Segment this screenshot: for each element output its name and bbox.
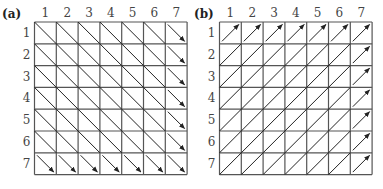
diagonal-line: [122, 131, 144, 153]
diagonal-line: [100, 44, 122, 66]
diagonal-line: [144, 109, 166, 131]
column-label: 7: [357, 6, 365, 20]
row-label: 1: [208, 26, 216, 40]
diagonal-arrow: [124, 155, 141, 172]
diagonal-line: [78, 87, 100, 109]
diagonal-line: [144, 44, 166, 66]
column-label: 1: [227, 6, 235, 20]
row-label: 3: [23, 70, 31, 84]
diagonal-line: [35, 109, 57, 131]
diagonal-line: [220, 66, 242, 88]
diagonal-arrow: [59, 155, 76, 172]
diagonal-arrow: [309, 25, 326, 42]
panel-label-a: (a): [2, 7, 21, 21]
diagonal-arrow: [266, 25, 283, 42]
diagonal-line: [263, 44, 285, 66]
column-label: 2: [63, 6, 71, 20]
diagonal-line: [241, 131, 263, 153]
diagonal-line: [56, 131, 78, 153]
diagonal-line: [122, 109, 144, 131]
column-label: 6: [151, 6, 159, 20]
diagonal-arrow: [168, 68, 185, 85]
diagonal-line: [100, 109, 122, 131]
diagonal-line: [220, 44, 242, 66]
diagonal-line: [144, 66, 166, 88]
row-label: 2: [208, 48, 216, 62]
diagonal-arrow: [353, 25, 370, 42]
row-label: 7: [208, 157, 216, 171]
diagonal-line: [241, 44, 263, 66]
diagonal-line: [241, 109, 263, 131]
diagram-figure: (a)12345671234567 (b)12345671234567: [0, 0, 383, 189]
diagonal-arrow: [353, 134, 370, 151]
diagonal-arrow: [168, 134, 185, 151]
diagonal-arrow: [353, 155, 370, 172]
diagonal-arrow: [353, 112, 370, 129]
column-label: 2: [248, 6, 256, 20]
diagonal-line: [100, 87, 122, 109]
diagonal-line: [56, 66, 78, 88]
diagonal-line: [78, 131, 100, 153]
diagonal-line: [144, 22, 166, 44]
diagonal-line: [329, 153, 351, 175]
diagonal-line: [35, 66, 57, 88]
diagonal-line: [35, 131, 57, 153]
diagonal-line: [307, 87, 329, 109]
diagonal-arrow: [331, 25, 348, 42]
diagonal-line: [307, 109, 329, 131]
diagonal-line: [263, 87, 285, 109]
diagonal-arrow: [168, 25, 185, 42]
panel-b: (b)12345671234567: [194, 6, 372, 175]
diagonal-line: [329, 109, 351, 131]
row-label: 4: [208, 91, 216, 105]
diagonal-line: [122, 44, 144, 66]
diagonal-line: [56, 22, 78, 44]
diagonal-line: [241, 153, 263, 175]
diagonal-line: [285, 109, 307, 131]
column-label: 5: [129, 6, 137, 20]
diagonal-arrow: [168, 46, 185, 63]
column-label: 6: [336, 6, 344, 20]
diagonal-line: [220, 131, 242, 153]
diagonal-arrow: [81, 155, 98, 172]
diagonal-line: [78, 109, 100, 131]
diagonal-arrow: [222, 25, 239, 42]
row-label: 6: [23, 135, 31, 149]
diagonal-line: [329, 66, 351, 88]
column-label: 4: [292, 6, 300, 20]
diagonal-line: [285, 87, 307, 109]
diagonal-line: [100, 131, 122, 153]
column-label: 3: [85, 6, 93, 20]
diagonal-line: [220, 109, 242, 131]
diagonal-line: [285, 66, 307, 88]
diagonal-line: [56, 87, 78, 109]
diagonal-line: [263, 131, 285, 153]
diagonal-line: [122, 66, 144, 88]
diagonal-arrow: [168, 155, 185, 172]
diagonal-line: [241, 87, 263, 109]
diagonal-line: [307, 66, 329, 88]
diagonal-line: [78, 66, 100, 88]
diagonal-line: [307, 131, 329, 153]
diagonal-line: [241, 66, 263, 88]
diagonal-line: [144, 87, 166, 109]
diagonal-line: [100, 22, 122, 44]
diagonal-arrow: [353, 46, 370, 63]
diagonal-arrow: [287, 25, 304, 42]
row-label: 5: [208, 113, 216, 127]
diagonal-arrow: [37, 155, 54, 172]
diagonal-arrow: [244, 25, 261, 42]
column-label: 5: [314, 6, 322, 20]
diagonal-line: [122, 87, 144, 109]
diagonal-line: [307, 153, 329, 175]
diagonal-line: [100, 66, 122, 88]
diagonal-line: [56, 109, 78, 131]
diagonal-line: [220, 153, 242, 175]
diagonal-line: [263, 109, 285, 131]
diagonal-line: [329, 44, 351, 66]
diagonal-arrow: [168, 90, 185, 107]
diagonal-arrow: [353, 68, 370, 85]
row-label: 1: [23, 26, 31, 40]
diagonal-line: [329, 131, 351, 153]
diagonal-arrow: [146, 155, 163, 172]
